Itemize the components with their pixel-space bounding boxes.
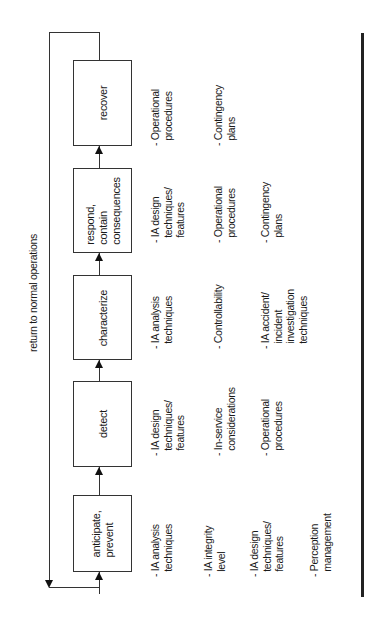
stage-box-recover: recover — [73, 60, 132, 146]
bullet-item: - Operational procedures — [259, 399, 284, 456]
bullet-item: - IA design techniques/ features — [149, 400, 187, 456]
feedback-loop-top — [49, 32, 100, 33]
stage-box-detect: detect — [73, 381, 132, 467]
arrow-up-icon — [95, 253, 103, 261]
stage-label: anticipate, prevent — [90, 510, 116, 557]
feedback-loop-bottom — [49, 587, 100, 588]
arrow-up-icon — [95, 146, 103, 154]
recover-exit-line — [99, 32, 100, 60]
arrow-up-icon — [95, 360, 103, 368]
arrow-up-icon — [95, 572, 103, 580]
arrow-up-icon — [95, 467, 103, 475]
bullet-item: - IA design techniques/ features — [149, 187, 187, 243]
stage-box-respond: respond, contain consequences — [73, 168, 132, 253]
bullet-item: - IA analysis techniques — [149, 524, 174, 577]
bullet-item: - IA design techniques/ features — [248, 521, 286, 577]
bullet-item: - IA analysis techniques — [149, 296, 174, 349]
stage-label: recover — [96, 86, 109, 121]
bullet-item: - IA integrity level — [202, 526, 227, 577]
stage-box-anticipate: anticipate, prevent — [73, 495, 132, 572]
stage-label: detect — [96, 410, 109, 438]
bullet-item: - Controllability — [212, 285, 225, 349]
bullet-item: - IA accident/ incident investigation te… — [259, 289, 309, 349]
stage-label: characterize — [96, 289, 109, 345]
bullet-item: - Contingency plans — [212, 85, 237, 146]
bullet-item: - Operational procedures — [149, 89, 174, 146]
feedback-loop-left — [49, 32, 50, 582]
page-rule — [361, 33, 364, 597]
stage-label: respond, contain consequences — [83, 177, 122, 244]
bullet-item: - Operational procedures — [212, 186, 237, 243]
stage-box-characterize: characterize — [73, 275, 132, 360]
bullet-item: - In-service considerations — [212, 387, 237, 456]
bullet-item: - Perception management — [308, 513, 333, 577]
feedback-label: return to normal operations — [27, 234, 40, 352]
bullet-item: - Contingency plans — [259, 182, 284, 243]
